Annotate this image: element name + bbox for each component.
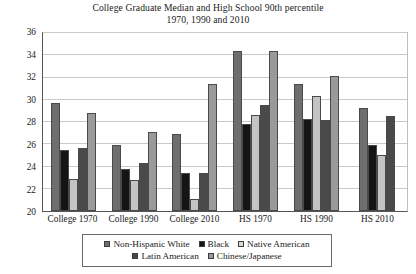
legend-row-2: Latin AmericanChinese/Japanese: [88, 250, 326, 262]
bar[interactable]: [181, 173, 190, 211]
bar[interactable]: [303, 119, 312, 211]
legend-item[interactable]: Chinese/Japanese: [208, 250, 282, 262]
bar-groups: [43, 33, 407, 211]
chart-title-block: College Graduate Median and High School …: [0, 2, 416, 25]
legend-item[interactable]: Non-Hispanic White: [104, 238, 189, 250]
y-tick-label: 26: [27, 140, 36, 150]
bar-group: [43, 33, 104, 211]
y-tick-label: 32: [27, 72, 36, 82]
chart-subtitle: 1970, 1990 and 2010: [0, 14, 416, 26]
bar[interactable]: [139, 163, 148, 211]
legend-label: Black: [208, 238, 229, 250]
chart-title: College Graduate Median and High School …: [0, 2, 416, 14]
bar-group: [225, 33, 286, 211]
bar[interactable]: [269, 51, 278, 211]
bar[interactable]: [87, 113, 96, 211]
bar[interactable]: [190, 199, 199, 211]
x-tick-label: College 2010: [164, 214, 225, 224]
y-tick-label: 22: [27, 185, 36, 195]
legend-item[interactable]: Black: [199, 238, 229, 250]
x-tick-label: College 1970: [42, 214, 103, 224]
legend-item[interactable]: Native American: [238, 238, 310, 250]
bar-group: [346, 33, 407, 211]
y-tick-label: 34: [27, 50, 36, 60]
y-tick-label: 24: [27, 162, 36, 172]
bar-group: [286, 33, 347, 211]
bar[interactable]: [359, 108, 368, 211]
bar[interactable]: [112, 145, 121, 211]
bar[interactable]: [321, 120, 330, 211]
bar[interactable]: [242, 124, 251, 211]
bar[interactable]: [199, 173, 208, 211]
y-axis-tick-labels: 202224262830323436: [0, 32, 40, 212]
bar[interactable]: [260, 105, 269, 211]
bar[interactable]: [60, 150, 69, 211]
bar[interactable]: [377, 155, 386, 211]
x-axis-tick-labels: College 1970College 1990College 2010HS 1…: [42, 214, 408, 224]
bar[interactable]: [148, 132, 157, 211]
legend-label: Non-Hispanic White: [113, 238, 189, 250]
bar[interactable]: [78, 148, 87, 211]
bar[interactable]: [130, 180, 139, 211]
bar[interactable]: [51, 103, 60, 211]
x-tick-label: HS 1990: [286, 214, 347, 224]
bar[interactable]: [233, 51, 242, 211]
legend-swatch-icon: [104, 241, 110, 247]
bar[interactable]: [121, 169, 130, 211]
legend-item[interactable]: Latin American: [132, 250, 198, 262]
chart-figure: College Graduate Median and High School …: [0, 0, 416, 274]
bar[interactable]: [251, 115, 260, 211]
y-tick-label: 30: [27, 95, 36, 105]
y-tick-label: 36: [27, 27, 36, 37]
bar-group: [104, 33, 165, 211]
plot-area: [42, 32, 408, 212]
bar[interactable]: [69, 179, 78, 211]
chart-legend: Non-Hispanic WhiteBlackNative American L…: [82, 234, 332, 267]
legend-row-1: Non-Hispanic WhiteBlackNative American: [88, 238, 326, 250]
legend-swatch-icon: [208, 253, 214, 259]
bar[interactable]: [294, 84, 303, 211]
x-tick-label: College 1990: [103, 214, 164, 224]
bar[interactable]: [312, 96, 321, 211]
bar[interactable]: [330, 76, 339, 211]
x-tick-label: HS 2010: [347, 214, 408, 224]
bar[interactable]: [208, 84, 217, 211]
bar[interactable]: [368, 145, 377, 211]
legend-swatch-icon: [132, 253, 138, 259]
legend-swatch-icon: [238, 241, 244, 247]
bar[interactable]: [386, 116, 395, 211]
y-tick-label: 20: [27, 207, 36, 217]
plot-wrapper: [42, 32, 408, 212]
x-tick-label: HS 1970: [225, 214, 286, 224]
legend-label: Native American: [247, 238, 310, 250]
y-tick-label: 28: [27, 117, 36, 127]
legend-label: Latin American: [141, 250, 198, 262]
bar-group: [164, 33, 225, 211]
legend-label: Chinese/Japanese: [217, 250, 282, 262]
legend-swatch-icon: [199, 241, 205, 247]
bar[interactable]: [172, 134, 181, 211]
